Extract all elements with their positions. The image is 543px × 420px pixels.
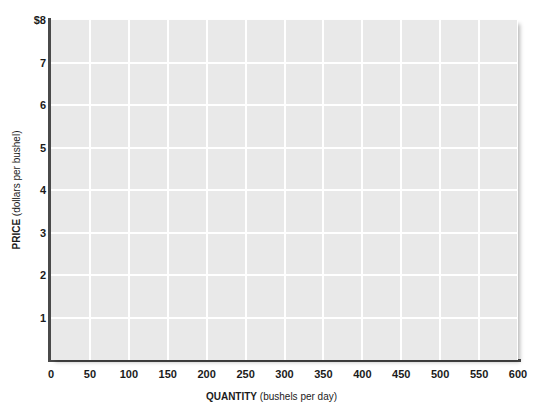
x-axis-tick-label: 400 bbox=[342, 368, 382, 380]
y-axis-tick-label: $8 bbox=[2, 15, 46, 26]
x-axis-tick-label: 250 bbox=[226, 368, 266, 380]
horizontal-gridline bbox=[51, 232, 518, 234]
x-axis-tick-label: 50 bbox=[70, 368, 110, 380]
x-axis-tick-label: 200 bbox=[187, 368, 227, 380]
x-axis-title-bold: QUANTITY bbox=[206, 391, 257, 402]
x-axis-tick-label: 350 bbox=[303, 368, 343, 380]
horizontal-gridline bbox=[51, 274, 518, 276]
x-axis-title: QUANTITY (bushels per day) bbox=[0, 391, 543, 403]
x-axis-tick-label: 300 bbox=[265, 368, 305, 380]
horizontal-gridline bbox=[51, 189, 518, 191]
y-axis-tick-label: 6 bbox=[2, 100, 46, 111]
x-axis-tick-label: 100 bbox=[109, 368, 149, 380]
y-axis-tick-label: 3 bbox=[2, 227, 46, 238]
gridlines bbox=[51, 20, 518, 360]
x-axis-tick-label: 500 bbox=[420, 368, 460, 380]
plot-area bbox=[51, 20, 518, 360]
horizontal-gridline bbox=[51, 62, 518, 64]
x-axis-title-note: (bushels per day) bbox=[260, 391, 337, 402]
x-axis-tick-label: 0 bbox=[31, 368, 71, 380]
y-axis-tick-label: 7 bbox=[2, 57, 46, 68]
y-axis-tick-label: 1 bbox=[2, 312, 46, 323]
x-axis-tick-labels: 050100150200250300350400450500550600 bbox=[0, 368, 543, 384]
y-axis-tick-label: 4 bbox=[2, 185, 46, 196]
horizontal-gridline bbox=[51, 147, 518, 149]
horizontal-gridline bbox=[51, 104, 518, 106]
y-axis-tick-label: 2 bbox=[2, 270, 46, 281]
y-axis-tick-label: 5 bbox=[2, 142, 46, 153]
x-axis-tick-label: 550 bbox=[459, 368, 499, 380]
x-axis-tick-label: 150 bbox=[148, 368, 188, 380]
horizontal-gridline bbox=[51, 317, 518, 319]
x-axis-tick-label: 600 bbox=[498, 368, 538, 380]
x-axis-tick-label: 450 bbox=[381, 368, 421, 380]
y-axis-tick-labels: 1234567$8 bbox=[0, 0, 46, 420]
